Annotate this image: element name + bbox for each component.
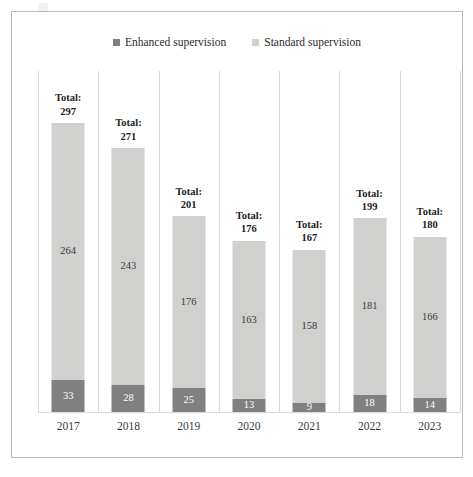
bar-segment-enhanced-supervision[interactable]: 28 [112,385,145,412]
axis-tick-label: 2019 [159,417,219,435]
bar-value-label: 243 [121,261,137,272]
total-label-value: 201 [161,198,217,211]
bar-column[interactable]: 18118Total:199 [339,71,399,412]
legend-label-enhanced-supervision: Enhanced supervision [125,37,226,49]
stacked-bar[interactable]: 1589 [293,250,326,412]
axis-tick-label: 2018 [98,417,158,435]
legend-entry-enhanced-supervision: Enhanced supervision [113,37,226,49]
bar-segment-standard-supervision[interactable]: 166 [413,237,446,399]
bar-total-label: Total:271 [100,116,156,143]
total-label-value: 176 [221,222,277,235]
total-label-prefix: Total: [40,91,96,104]
bar-segment-enhanced-supervision[interactable]: 13 [232,399,265,412]
total-label-value: 180 [402,218,458,231]
bar-value-label: 13 [244,400,255,411]
bar-segment-enhanced-supervision[interactable]: 33 [52,380,85,412]
bar-column[interactable]: 1589Total:167 [279,71,339,412]
total-label-value: 271 [100,130,156,143]
category-separator-line [460,71,461,412]
axis-tick-label: 2022 [339,417,399,435]
legend-swatch-standard-supervision [252,39,259,46]
bar-value-label: 28 [123,393,134,404]
bar-column[interactable]: 26433Total:297 [38,71,98,412]
total-label-prefix: Total: [281,218,337,231]
decorative-artifact [38,3,48,11]
axis-tick-label: 2020 [219,417,279,435]
bar-column[interactable]: 16614Total:180 [400,71,460,412]
bar-value-label: 163 [241,315,257,326]
bar-value-label: 176 [181,297,197,308]
bar-value-label: 25 [183,395,194,406]
bar-segment-enhanced-supervision[interactable]: 25 [172,388,205,412]
category-axis-line [38,412,460,413]
chart-frame: Enhanced supervision Standard supervisio… [11,11,463,458]
bar-value-label: 18 [364,398,375,409]
bar-value-label: 158 [301,321,317,332]
bar-total-label: Total:297 [40,91,96,118]
total-label-value: 167 [281,231,337,244]
bar-segment-standard-supervision[interactable]: 158 [293,250,326,404]
bar-segment-standard-supervision[interactable]: 243 [112,148,145,384]
bar-segment-enhanced-supervision[interactable]: 18 [353,395,386,413]
bar-column[interactable]: 24328Total:271 [98,71,158,412]
bar-segment-enhanced-supervision[interactable]: 14 [413,398,446,412]
total-label-prefix: Total: [100,116,156,129]
bar-total-label: Total:201 [161,185,217,212]
bar-column[interactable]: 16313Total:176 [219,71,279,412]
bar-segment-standard-supervision[interactable]: 176 [172,216,205,387]
total-label-prefix: Total: [161,185,217,198]
bar-value-label: 33 [63,391,74,402]
bar-total-label: Total:176 [221,209,277,236]
chart-legend: Enhanced supervision Standard supervisio… [12,37,462,49]
bar-value-label: 181 [362,301,378,312]
total-label-value: 199 [342,200,398,213]
bar-segment-standard-supervision[interactable]: 181 [353,218,386,394]
bar-segment-standard-supervision[interactable]: 264 [52,123,85,380]
axis-tick-label: 2023 [400,417,460,435]
stacked-bar[interactable]: 26433 [52,123,85,412]
axis-tick-label: 2021 [279,417,339,435]
bar-segment-standard-supervision[interactable]: 163 [232,241,265,400]
stacked-bar[interactable]: 18118 [353,218,386,412]
stacked-bar[interactable]: 16614 [413,237,446,412]
total-label-prefix: Total: [221,209,277,222]
legend-swatch-enhanced-supervision [113,39,120,46]
bar-group: 26433Total:29724328Total:27117625Total:2… [38,71,460,412]
plot-area: 26433Total:29724328Total:27117625Total:2… [38,71,460,412]
total-label-value: 297 [40,105,96,118]
bar-total-label: Total:199 [342,187,398,214]
bar-column[interactable]: 17625Total:201 [159,71,219,412]
stacked-bar[interactable]: 16313 [232,241,265,412]
total-label-prefix: Total: [402,205,458,218]
legend-label-standard-supervision: Standard supervision [264,37,361,49]
stacked-bar[interactable]: 17625 [172,216,205,412]
axis-tick-label: 2017 [38,417,98,435]
bar-segment-enhanced-supervision[interactable]: 9 [293,403,326,412]
bar-value-label: 14 [425,400,436,411]
bar-value-label: 166 [422,312,438,323]
total-label-prefix: Total: [342,187,398,200]
bar-total-label: Total:180 [402,205,458,232]
category-axis-labels: 2017201820192020202120222023 [38,417,460,435]
bar-value-label: 264 [60,246,76,257]
legend-entry-standard-supervision: Standard supervision [252,37,361,49]
stacked-bar[interactable]: 24328 [112,148,145,412]
bar-total-label: Total:167 [281,218,337,245]
